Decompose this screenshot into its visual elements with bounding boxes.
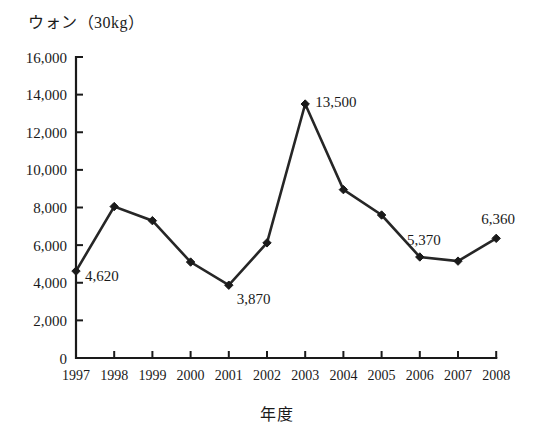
y-tick-label: 4,000 (33, 275, 67, 291)
y-tick-label: 2,000 (33, 313, 67, 329)
y-tick-label: 6,000 (33, 238, 67, 254)
data-point-markers (72, 100, 501, 290)
data-value-label: 4,620 (85, 268, 119, 284)
x-tick-label: 2005 (368, 368, 396, 383)
data-value-label: 3,870 (237, 291, 271, 307)
y-tick-label: 8,000 (33, 200, 67, 216)
x-tick-label: 1997 (62, 368, 90, 383)
y-tick-label: 12,000 (26, 125, 67, 141)
x-tick-label: 1999 (138, 368, 166, 383)
x-tick-label: 2006 (406, 368, 434, 383)
data-value-label: 13,500 (315, 94, 356, 110)
y-tick-label: 10,000 (26, 162, 67, 178)
x-tick-label: 2007 (444, 368, 472, 383)
x-tick-label: 2000 (177, 368, 205, 383)
y-axis-tick-labels: 02,0004,0006,0008,00010,00012,00014,0001… (26, 50, 67, 367)
data-point-marker (301, 100, 309, 108)
x-tick-label: 2002 (253, 368, 281, 383)
x-tick-label: 2008 (482, 368, 510, 383)
x-tick-label: 2004 (329, 368, 357, 383)
x-tick-label: 2003 (291, 368, 319, 383)
y-tick-label: 14,000 (26, 87, 67, 103)
y-tick-label: 16,000 (26, 50, 67, 66)
y-tick-label: 0 (60, 351, 68, 367)
x-tick-label: 2001 (215, 368, 243, 383)
data-value-label: 6,360 (481, 211, 515, 227)
x-tick-label: 1998 (100, 368, 128, 383)
x-axis-tick-labels: 1997199819992000200120022003200420052006… (62, 368, 510, 383)
data-series-line (76, 104, 496, 285)
line-chart-plot: 02,0004,0006,0008,00010,00012,00014,0001… (0, 0, 553, 434)
x-axis-title: 年度 (0, 401, 553, 425)
data-value-label: 5,370 (407, 232, 441, 248)
chart-figure: ウォン（30kg） 02,0004,0006,0008,00010,00012,… (0, 0, 553, 434)
chart-axes (76, 57, 496, 358)
